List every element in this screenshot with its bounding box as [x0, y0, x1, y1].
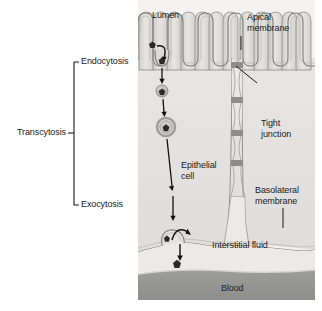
endocytosis-label: Endocytosis [81, 56, 128, 67]
transcytosis-label: Transcytosis [17, 127, 66, 138]
transcytosis-bracket [68, 62, 79, 205]
apical-membrane-label-line1: Apical [247, 12, 271, 23]
basolateral-membrane-label-line2: membrane [255, 196, 297, 207]
tight-junction-label-line2: junction [261, 129, 291, 140]
transcytosis-diagram: Transcytosis Endocytosis Exocytosis Lume… [0, 0, 322, 311]
junction-band [231, 97, 243, 103]
blood-label: Blood [221, 283, 244, 294]
microvillus [223, 12, 238, 70]
epithelial-cell-label-line1: Epithelial [181, 160, 217, 171]
lumen-label: Lumen [152, 10, 179, 21]
illustration-panel [0, 0, 322, 311]
junction-band [231, 160, 243, 166]
epithelial-cell-label-line2: cell [181, 171, 194, 182]
interstitial-fluid-label: Interstitial fluid [212, 240, 268, 251]
apical-membrane-label-line2: membrane [247, 23, 289, 34]
junction-band [231, 130, 243, 136]
tight-junction-label-line1: Tight [261, 118, 280, 129]
bracket-path [74, 62, 79, 205]
basolateral-membrane-label-line1: Basolateral [255, 185, 299, 196]
panel-contents [138, 0, 315, 300]
exocytosis-label: Exocytosis [81, 199, 123, 210]
